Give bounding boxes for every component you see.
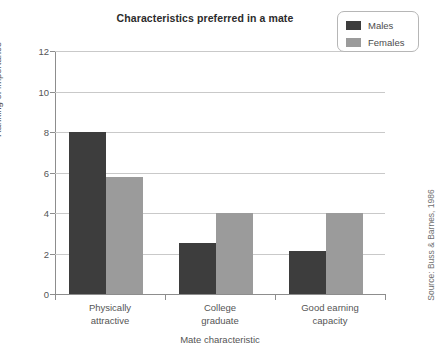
- plot-area: 024681012: [55, 51, 385, 294]
- x-axis-line: [55, 294, 386, 295]
- y-tick-label: 8: [27, 132, 49, 133]
- x-tick-mark: [55, 294, 56, 300]
- category-label-line: attractive: [55, 315, 165, 328]
- chart-title: Characteristics preferred in a mate: [55, 12, 355, 24]
- y-tick-mark: [50, 254, 55, 255]
- y-tick-label: 10: [27, 92, 49, 93]
- y-tick-label: 2: [27, 254, 49, 255]
- x-axis-label: Mate characteristic: [55, 334, 385, 345]
- chart-legend: Males Females: [337, 11, 419, 52]
- y-axis-label: Ranking of importance: [0, 10, 3, 170]
- legend-swatch-males: [346, 21, 361, 30]
- category-label-line: College: [165, 302, 275, 315]
- y-tick-label: 0: [27, 294, 49, 295]
- y-tick-label: 12: [27, 51, 49, 52]
- legend-swatch-females: [346, 38, 361, 47]
- category-label-line: graduate: [165, 315, 275, 328]
- x-tick-mark: [275, 294, 276, 300]
- bar-males-1: [179, 243, 216, 294]
- legend-label-males: Males: [368, 20, 393, 31]
- category-label: Collegegraduate: [165, 302, 275, 327]
- category-label: Physicallyattractive: [55, 302, 165, 327]
- category-label-line: capacity: [275, 315, 385, 328]
- y-tick-mark: [50, 51, 55, 52]
- gridline: [55, 51, 385, 52]
- category-label-line: Physically: [55, 302, 165, 315]
- legend-item-females: Females: [346, 34, 418, 50]
- y-tick-mark: [50, 173, 55, 174]
- x-tick-mark: [385, 294, 386, 300]
- y-tick-mark: [50, 213, 55, 214]
- y-tick-label: 4: [27, 213, 49, 214]
- bar-males-2: [289, 251, 326, 294]
- category-label-line: Good earning: [275, 302, 385, 315]
- bar-females-1: [216, 213, 253, 294]
- legend-item-males: Males: [346, 17, 418, 33]
- gridline: [55, 92, 385, 93]
- bar-males-0: [69, 132, 106, 294]
- y-tick-label: 6: [27, 173, 49, 174]
- category-label: Good earningcapacity: [275, 302, 385, 327]
- source-note: Source: Buss & Barnes, 1986: [426, 175, 436, 315]
- x-tick-mark: [165, 294, 166, 300]
- bar-females-0: [106, 177, 143, 294]
- y-tick-mark: [50, 92, 55, 93]
- y-tick-mark: [50, 132, 55, 133]
- bar-females-2: [326, 213, 363, 294]
- legend-label-females: Females: [368, 37, 404, 48]
